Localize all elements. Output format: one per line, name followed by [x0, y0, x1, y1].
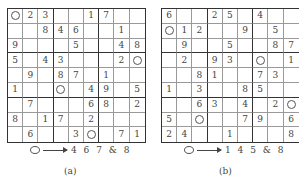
grid-cell — [162, 98, 177, 113]
grid-cell — [69, 53, 84, 68]
grid-cell — [208, 113, 223, 128]
grid-cell: 4 — [54, 24, 69, 39]
grid-cell — [223, 24, 238, 39]
grid-cell: 5 — [8, 53, 23, 68]
grid-cell: 2 — [23, 9, 38, 24]
grid-cell — [8, 68, 23, 83]
grid-cell: 1 — [84, 9, 99, 24]
grid-cell — [238, 39, 253, 54]
grid-cell — [223, 113, 238, 128]
grid-cell — [54, 9, 69, 24]
grid-cell: 1 — [284, 53, 299, 68]
grid-cell: 4 — [177, 127, 192, 142]
grid-cell — [284, 68, 299, 83]
grid-cell: 3 — [54, 53, 69, 68]
grid-cell: 2 — [130, 98, 145, 113]
grid-cell — [8, 127, 23, 142]
grid-cell — [208, 127, 223, 142]
grid-cell — [253, 24, 268, 39]
grid-cell: 8 — [238, 83, 253, 98]
grid-cell — [8, 24, 23, 39]
legend-text-a: 4 6 7 & 8 — [71, 145, 131, 155]
grid-cell: 9 — [238, 24, 253, 39]
grid-cell: 8 — [130, 39, 145, 54]
grid-cell — [84, 127, 99, 142]
grid-cell — [177, 113, 192, 128]
grid-cell — [177, 98, 192, 113]
grid-cell: 8 — [8, 113, 23, 128]
circle-icon — [56, 85, 65, 94]
grid-cell — [192, 9, 207, 24]
grid-cell: 6 — [162, 9, 177, 24]
caption-a: (a) — [64, 166, 76, 176]
grid-cell — [114, 68, 129, 83]
grid-cell — [99, 24, 114, 39]
grid-cell — [177, 9, 192, 24]
grid-cell — [253, 127, 268, 142]
grid-cell — [114, 83, 129, 98]
grid-cell: 1 — [177, 24, 192, 39]
grid-cell: 4 — [38, 53, 53, 68]
grid-cell — [238, 68, 253, 83]
grid-cell: 7 — [284, 39, 299, 54]
grid-cell — [114, 9, 129, 24]
grid-cell: 8 — [38, 24, 53, 39]
grid-cell: 1 — [114, 24, 129, 39]
grid-cell: 9 — [253, 113, 268, 128]
grid-cell: 2 — [162, 127, 177, 142]
grid-cell — [238, 9, 253, 24]
grid-cell — [69, 98, 84, 113]
grid-cell: 5 — [223, 39, 238, 54]
grid-cell — [99, 113, 114, 128]
grid-cell — [208, 24, 223, 39]
sudoku-grid-b: 625412959587293181731385634257962418 — [161, 8, 299, 143]
grid-cell — [54, 98, 69, 113]
circle-icon — [30, 146, 40, 154]
grid-cell — [84, 53, 99, 68]
grid-cell — [54, 127, 69, 142]
grid-cell — [130, 68, 145, 83]
grid-cell — [114, 98, 129, 113]
grid-cell — [162, 39, 177, 54]
grid-cell: 3 — [208, 98, 223, 113]
grid-cell: 2 — [208, 9, 223, 24]
grid-cell: 8 — [268, 39, 283, 54]
grid-cell — [23, 83, 38, 98]
grid-cell — [69, 83, 84, 98]
grid-cell — [177, 68, 192, 83]
grid-cell — [23, 113, 38, 128]
grid-cell — [268, 53, 283, 68]
grid-cell — [130, 53, 145, 68]
grid-cell — [162, 24, 177, 39]
circle-icon — [256, 56, 265, 65]
grid-cell — [99, 53, 114, 68]
grid-cell: 4 — [114, 39, 129, 54]
caption-b: (b) — [219, 166, 232, 176]
grid-cell: 1 — [8, 83, 23, 98]
grid-cell: 6 — [284, 113, 299, 128]
grid-cell: 2 — [268, 98, 283, 113]
grid-cell — [84, 39, 99, 54]
grid-cell: 9 — [99, 83, 114, 98]
arrow-right-icon — [197, 150, 221, 151]
grid-cell — [268, 113, 283, 128]
grid-cell: 3 — [223, 53, 238, 68]
grid-cell — [223, 68, 238, 83]
grid-cell — [23, 24, 38, 39]
grid-cell: 8 — [54, 68, 69, 83]
grid-cell — [38, 98, 53, 113]
grid-cell: 5 — [253, 83, 268, 98]
grid-cell: 2 — [177, 53, 192, 68]
arrow-right-icon — [43, 150, 67, 151]
grid-cell — [253, 53, 268, 68]
grid-cell: 1 — [223, 127, 238, 142]
circle-icon — [165, 26, 174, 35]
legend-a: 4 6 7 & 8 — [30, 145, 131, 155]
grid-cell — [38, 68, 53, 83]
grid-cell: 6 — [23, 127, 38, 142]
circle-icon — [195, 115, 204, 124]
grid-cell — [208, 83, 223, 98]
grid-cell: 3 — [192, 83, 207, 98]
grid-cell: 6 — [84, 98, 99, 113]
grid-cell: 7 — [114, 127, 129, 142]
